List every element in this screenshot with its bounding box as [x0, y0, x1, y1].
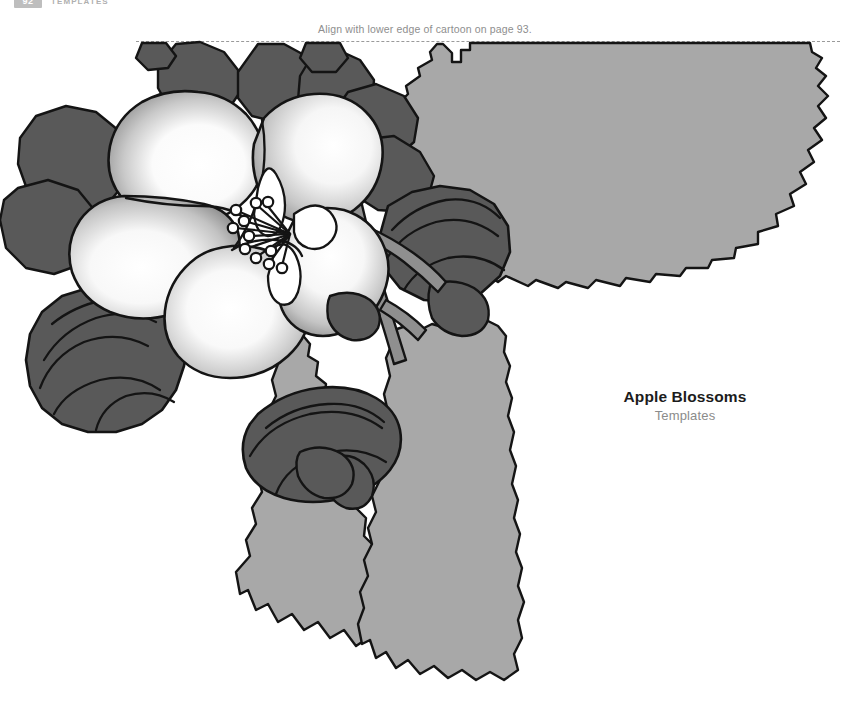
caption-title: Apple Blossoms — [560, 388, 810, 406]
apple-blossom-artwork — [0, 0, 850, 708]
caption-subtitle: Templates — [560, 408, 810, 424]
artwork-caption: Apple Blossoms Templates — [560, 388, 810, 424]
template-page: 92 TEMPLATES Align with lower edge of ca… — [0, 0, 850, 708]
lower-right-leaf — [358, 320, 524, 680]
inner-petal-curl-right — [294, 205, 337, 249]
